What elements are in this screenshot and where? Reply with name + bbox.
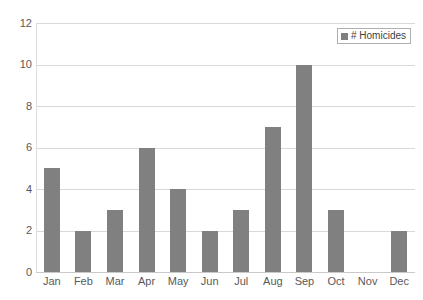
y-axis-tick-label: 10 <box>4 59 32 70</box>
y-axis-tick-label: 6 <box>4 142 32 153</box>
bar-jun <box>202 231 218 273</box>
chart-legend: # Homicides <box>337 28 411 44</box>
y-axis-tick-label: 8 <box>4 101 32 112</box>
gridline <box>36 272 415 273</box>
x-axis-labels: JanFebMarAprMayJunJulAugSepOctNovDec <box>36 275 415 295</box>
y-axis-tick-label: 4 <box>4 184 32 195</box>
bar-jul <box>233 210 249 272</box>
y-axis-tick-label: 12 <box>4 18 32 29</box>
bar-mar <box>107 210 123 272</box>
bar-dec <box>391 231 407 273</box>
bar-oct <box>328 210 344 272</box>
y-axis-tick-label: 0 <box>4 267 32 278</box>
legend-label: # Homicides <box>351 31 406 41</box>
bar-aug <box>265 127 281 272</box>
y-axis-tick-label: 2 <box>4 225 32 236</box>
legend-swatch-icon <box>341 33 348 40</box>
bar-apr <box>139 148 155 273</box>
bar-jan <box>44 168 60 272</box>
bar-may <box>170 189 186 272</box>
bar-chart: 024681012 JanFebMarAprMayJunJulAugSepOct… <box>0 0 423 300</box>
x-axis-tick-label: Dec <box>379 275 419 288</box>
bars-layer <box>36 23 415 272</box>
y-axis-labels: 024681012 <box>0 0 32 300</box>
bar-sep <box>296 65 312 273</box>
bar-feb <box>75 231 91 273</box>
